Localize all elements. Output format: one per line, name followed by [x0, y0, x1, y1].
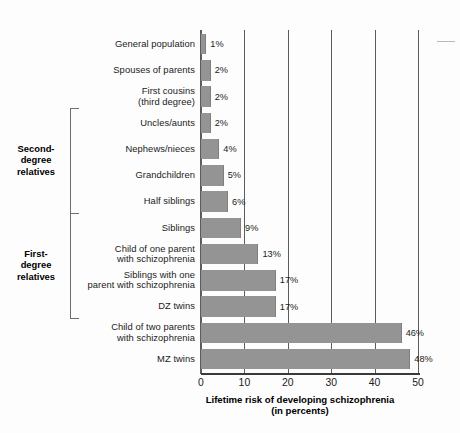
category-label-line: Half siblings [5, 196, 195, 207]
category-label: First cousins(third degree) [5, 86, 195, 107]
bar [201, 296, 276, 317]
bar [201, 113, 211, 134]
bar [201, 60, 211, 81]
bar-container: 2% [201, 57, 228, 83]
category-label: Child of one parentwith schizophrenia [5, 244, 195, 265]
bar-container: 13% [201, 241, 281, 267]
bar-container: 1% [201, 31, 224, 57]
x-tick-label-50: 50 [403, 377, 433, 388]
bar-row: DZ twins17% [0, 294, 460, 320]
bar-row: Child of two parentswith schizophrenia46… [0, 320, 460, 346]
bar-value-label: 17% [280, 275, 298, 285]
bar-value-label: 2% [215, 118, 228, 128]
bar-row: Spouses of parents2% [0, 57, 460, 83]
bar-container: 2% [201, 110, 228, 136]
x-tick-label-10: 10 [229, 377, 259, 388]
bar-container: 5% [201, 162, 241, 188]
category-label: Siblings [5, 223, 195, 234]
category-label-line: Spouses of parents [5, 65, 195, 76]
x-tick-label-40: 40 [360, 377, 390, 388]
bar-row: Siblings with oneparent with schizophren… [0, 267, 460, 293]
bar [201, 349, 410, 370]
bar-value-label: 13% [262, 249, 280, 259]
bar [201, 34, 206, 55]
bar-value-label: 46% [406, 328, 424, 338]
bar-row: Siblings9% [0, 215, 460, 241]
bar-container: 48% [201, 346, 433, 372]
category-label: DZ twins [5, 301, 195, 312]
category-label-line: General population [5, 39, 195, 50]
bar-value-label: 17% [280, 302, 298, 312]
bar [201, 139, 219, 160]
bar-row: MZ twins48% [0, 346, 460, 372]
bar-container: 2% [201, 84, 228, 110]
x-axis-title-line1: Lifetime risk of developing schizophreni… [150, 394, 450, 405]
bar-row: Uncles/aunts2% [0, 110, 460, 136]
bar-value-label: 9% [245, 223, 258, 233]
bar [201, 86, 211, 107]
bar [201, 270, 276, 291]
category-label: MZ twins [5, 354, 195, 365]
bar-row: General population1% [0, 31, 460, 57]
bar-container: 46% [201, 320, 424, 346]
bar-value-label: 4% [223, 144, 236, 154]
bar-value-label: 48% [414, 354, 432, 364]
category-label-line: MZ twins [5, 354, 195, 365]
category-label: Child of two parentswith schizophrenia [5, 322, 195, 343]
category-label-line: Siblings [5, 223, 195, 234]
category-label: Uncles/aunts [5, 118, 195, 129]
bar [201, 323, 402, 344]
category-label-line: (third degree) [5, 97, 195, 108]
bar-container: 9% [201, 215, 258, 241]
category-label: Spouses of parents [5, 65, 195, 76]
bar-row: Nephews/nieces4% [0, 136, 460, 162]
bar-value-label: 6% [232, 197, 245, 207]
x-tick-label-0: 0 [186, 377, 216, 388]
bar [201, 244, 258, 265]
bar-row: First cousins(third degree)2% [0, 84, 460, 110]
x-axis-title: Lifetime risk of developing schizophreni… [150, 394, 450, 417]
category-label: General population [5, 39, 195, 50]
bar-container: 17% [201, 294, 298, 320]
bar [201, 218, 241, 239]
bar [201, 165, 224, 186]
bar-row: Half siblings6% [0, 189, 460, 215]
bar-value-label: 1% [210, 39, 223, 49]
bar [201, 191, 228, 212]
bar-row: Grandchildren5% [0, 162, 460, 188]
category-label: Siblings with oneparent with schizophren… [5, 270, 195, 291]
category-label: Half siblings [5, 196, 195, 207]
bar-value-label: 2% [215, 65, 228, 75]
category-label-line: First cousins [5, 86, 195, 97]
bar-value-label: 2% [215, 92, 228, 102]
bar-container: 17% [201, 267, 298, 293]
x-axis-line [201, 373, 420, 375]
category-label-line: with schizophrenia [5, 254, 195, 265]
bar-value-label: 5% [228, 170, 241, 180]
x-axis-title-line2: (in percents) [150, 405, 450, 416]
category-label-line: DZ twins [5, 301, 195, 312]
category-label-line: Grandchildren [5, 170, 195, 181]
bar-row: Child of one parentwith schizophrenia13% [0, 241, 460, 267]
category-label-line: Uncles/aunts [5, 118, 195, 129]
category-label: Nephews/nieces [5, 144, 195, 155]
bar-container: 4% [201, 136, 237, 162]
x-tick-label-20: 20 [273, 377, 303, 388]
category-label-line: with schizophrenia [5, 333, 195, 344]
chart-figure: Second-degreerelativesFirst-degreerelati… [0, 0, 460, 433]
bar-container: 6% [201, 189, 245, 215]
x-tick-label-30: 30 [316, 377, 346, 388]
category-label-line: parent with schizophrenia [5, 280, 195, 291]
category-label-line: Nephews/nieces [5, 144, 195, 155]
category-label: Grandchildren [5, 170, 195, 181]
